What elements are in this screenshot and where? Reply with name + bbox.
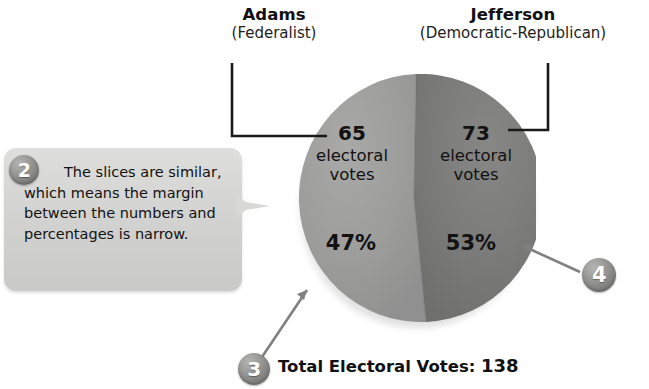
infographic-canvas: Adams (Federalist) Jefferson (Democratic… — [0, 0, 649, 389]
jefferson-vote-count: 73 — [424, 122, 528, 146]
pie-chart — [292, 74, 538, 326]
annotation-badge-4[interactable]: 4 — [582, 258, 616, 292]
annotation-badge-3[interactable]: 3 — [238, 353, 270, 385]
total-electoral-votes: Total Electoral Votes: 138 — [278, 355, 519, 376]
pie-slices — [292, 74, 536, 322]
adams-candidate-label: Adams (Federalist) — [152, 6, 396, 42]
adams-percent-label: 47% — [308, 231, 394, 256]
adams-name: Adams — [152, 6, 396, 24]
badge-4-number: 4 — [592, 263, 606, 287]
adams-votes-unit-line1: electoral — [300, 146, 404, 165]
total-value: 138 — [481, 355, 519, 376]
pie-slice-adams — [299, 74, 426, 322]
jefferson-party: (Democratic-Republican) — [380, 25, 646, 42]
jefferson-votes-unit-line1: electoral — [424, 146, 528, 165]
adams-votes-label: 65 electoral votes — [300, 122, 404, 185]
badge-3-number: 3 — [247, 357, 260, 381]
annotation-badge-2[interactable]: 2 — [9, 155, 39, 185]
badge-2-number: 2 — [18, 159, 31, 181]
jefferson-candidate-label: Jefferson (Democratic-Republican) — [380, 6, 646, 42]
jefferson-votes-unit-line2: votes — [424, 165, 528, 184]
callout-text: The slices are similar, which means the … — [24, 162, 226, 244]
callout-box-2: The slices are similar, which means the … — [4, 148, 242, 291]
jefferson-percent: 53% — [428, 231, 514, 256]
jefferson-votes-label: 73 electoral votes — [424, 122, 528, 185]
callout-pointer-arrow — [236, 190, 270, 222]
total-label: Total Electoral Votes: — [278, 357, 481, 376]
adams-votes-unit-line2: votes — [300, 165, 404, 184]
adams-vote-count: 65 — [300, 122, 404, 146]
jefferson-percent-label: 53% — [428, 231, 514, 256]
adams-party: (Federalist) — [152, 25, 396, 42]
pie-slice-jefferson — [414, 74, 536, 322]
jefferson-name: Jefferson — [380, 6, 646, 24]
adams-percent: 47% — [308, 231, 394, 256]
